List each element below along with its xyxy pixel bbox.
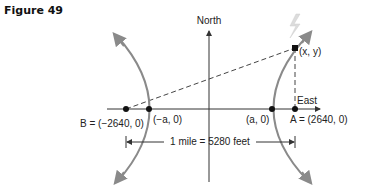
neg-vertex-label: (−a, 0) — [153, 114, 182, 125]
north-label: North — [197, 15, 221, 26]
dashed-line-b-to-point — [126, 48, 295, 109]
point-a — [292, 106, 298, 112]
pos-vertex-label: (a, 0) — [246, 114, 269, 125]
dimension-label: 1 mile = 5280 feet — [170, 136, 250, 147]
point-b-label: B = (−2640, 0) — [80, 118, 144, 129]
point-xy — [292, 45, 298, 51]
point-pos-vertex — [269, 106, 275, 112]
east-label: East — [297, 95, 317, 106]
point-neg-vertex — [146, 106, 152, 112]
point-xy-label: (x, y) — [299, 46, 321, 57]
point-a-label: A = (2640, 0) — [290, 114, 348, 125]
hyperbola-diagram: North East 1 mile = 5280 feet B = (−2640… — [0, 0, 370, 196]
lightning-icon — [290, 14, 300, 38]
point-b — [123, 106, 129, 112]
